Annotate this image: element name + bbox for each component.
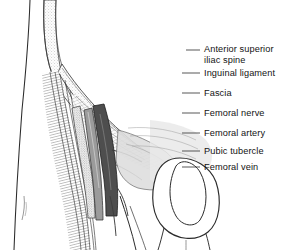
label-fascia: Fascia: [204, 88, 232, 98]
label-list: Anterior superior iliac spine Inguinal l…: [0, 0, 294, 250]
label-line-2: iliac spine: [204, 55, 245, 65]
label-inguinal-ligament: Inguinal ligament: [204, 68, 275, 78]
label-femoral-nerve: Femoral nerve: [204, 108, 265, 118]
label-pubic-tubercle: Pubic tubercle: [204, 146, 264, 156]
label-anterior-superior-iliac-spine: Anterior superior iliac spine: [204, 44, 294, 65]
label-femoral-vein: Femoral vein: [204, 162, 258, 172]
label-femoral-artery: Femoral artery: [204, 128, 265, 138]
anatomy-figure: Anterior superior iliac spine Inguinal l…: [0, 0, 294, 250]
label-line-1: Anterior superior: [204, 44, 274, 54]
